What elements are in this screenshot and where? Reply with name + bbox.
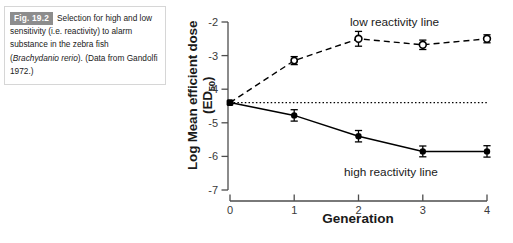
x-tick-label: 3	[420, 204, 426, 216]
y-axis-tick-labels: -2 -3 -4 -5 -6 -7	[208, 16, 218, 196]
chart-svg: -2 -3 -4 -5 -6 -7 0 1 2 3 4	[168, 0, 513, 243]
high-reactivity-error-bars	[291, 110, 491, 157]
y-tick-label: -4	[208, 83, 218, 95]
high-reactivity-polyline	[230, 103, 487, 152]
figure-caption-box: Fig. 19.2Selection for high and low sens…	[4, 6, 166, 85]
series-high-reactivity	[227, 99, 491, 157]
x-axis-tick-labels: 0 1 2 3 4	[227, 204, 490, 216]
low-reactivity-polyline	[230, 39, 487, 103]
low-reactivity-error-bars	[291, 31, 491, 64]
high-reactivity-markers	[227, 99, 491, 154]
figure-caption-text: Fig. 19.2Selection for high and low sens…	[10, 12, 159, 78]
y-tick-label: -6	[208, 150, 218, 162]
x-axis-ticks	[230, 195, 487, 202]
series-low-reactivity	[230, 31, 491, 102]
x-tick-label: 0	[227, 204, 233, 216]
caption-species-name: Brachydanio rerio	[13, 53, 78, 63]
annotation-low-reactivity: low reactivity line	[350, 15, 440, 29]
y-tick-label: -7	[208, 184, 218, 196]
x-tick-label: 1	[291, 204, 297, 216]
x-tick-label: 2	[355, 204, 361, 216]
y-tick-label: -2	[208, 16, 218, 28]
figure-number-badge: Fig. 19.2	[10, 12, 53, 25]
x-tick-label: 4	[484, 204, 490, 216]
low-reactivity-markers	[291, 35, 490, 63]
annotation-high-reactivity: high reactivity line	[344, 165, 438, 179]
chart-container: Log Mean efficient dose (ED50) Generatio…	[168, 0, 513, 243]
y-tick-label: -5	[208, 117, 218, 129]
y-tick-label: -3	[208, 50, 218, 62]
y-axis-ticks	[222, 22, 229, 190]
